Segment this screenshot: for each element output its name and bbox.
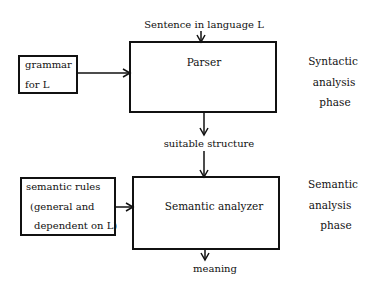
semantic-phase-line-1: Semantic — [308, 178, 358, 190]
semantic-analyzer-label: Semantic analyzer — [165, 200, 265, 212]
syntactic-phase-label: Syntactic analysis phase — [308, 55, 358, 108]
parser-label: Parser — [187, 56, 222, 68]
grammar-box: grammar for L — [19, 56, 77, 93]
semantic-phase-line-3: phase — [320, 219, 351, 231]
semantic-phase-line-2: analysis — [309, 199, 352, 211]
semantic-rules-line-2: (general and — [30, 201, 95, 212]
semantic-rules-line-3: dependent on L) — [34, 220, 117, 231]
syntactic-phase-line-1: Syntactic — [308, 55, 358, 67]
semantic-rules-line-1: semantic rules — [26, 181, 100, 192]
syntactic-phase-line-2: analysis — [313, 76, 356, 88]
syntactic-phase-line-3: phase — [319, 96, 350, 108]
semantic-phase-label: Semantic analysis phase — [308, 178, 358, 231]
semantic-analyzer-box: Semantic analyzer — [133, 177, 279, 249]
intermediate-label: suitable structure — [164, 138, 255, 149]
semantic-rules-box: semantic rules (general and dependent on… — [21, 178, 117, 235]
parser-box: Parser — [130, 42, 276, 112]
grammar-line-2: for L — [25, 79, 50, 90]
grammar-line-1: grammar — [25, 59, 72, 70]
flowchart: Sentence in language L Parser grammar fo… — [0, 0, 369, 287]
input-label: Sentence in language L — [144, 19, 264, 30]
diagram-canvas: Sentence in language L Parser grammar fo… — [0, 0, 369, 287]
output-label: meaning — [193, 263, 237, 274]
